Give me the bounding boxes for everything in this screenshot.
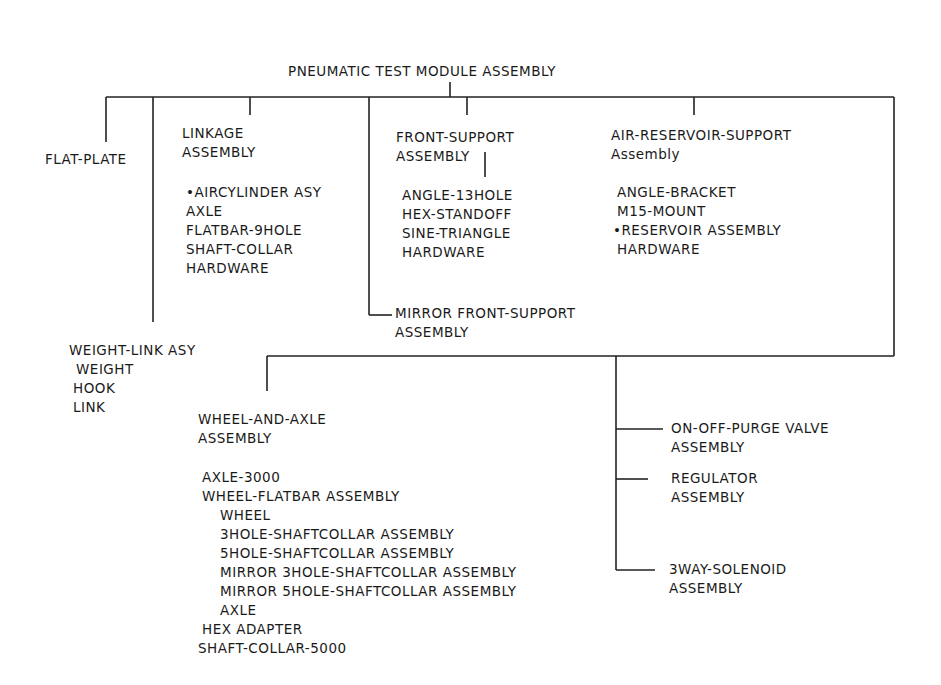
node-air-reservoir-support-assembly: AIR-RESERVOIR-SUPPORT Assembly	[611, 126, 791, 164]
node-weight-link-assembly: WEIGHT-LINK ASY WEIGHT HOOK LINK	[69, 341, 196, 417]
part-item: HEX ADAPTER	[198, 620, 517, 639]
node-title: ASSEMBLY	[671, 438, 829, 457]
node-regulator-assembly: REGULATOR ASSEMBLY	[671, 469, 758, 507]
node-wheel-and-axle-assembly: WHEEL-AND-AXLE ASSEMBLY	[198, 410, 326, 448]
part-item: WHEEL-FLATBAR ASSEMBLY	[198, 487, 517, 506]
node-title: 3WAY-SOLENOID	[669, 560, 787, 579]
part-item: MIRROR 3HOLE-SHAFTCOLLAR ASSEMBLY	[198, 563, 517, 582]
part-item: ANGLE-BRACKET	[613, 183, 781, 202]
part-item: 5HOLE-SHAFTCOLLAR ASSEMBLY	[198, 544, 517, 563]
node-on-off-purge-valve-assembly: ON-OFF-PURGE VALVE ASSEMBLY	[671, 419, 829, 457]
wheel-and-axle-parts-list: AXLE-3000 WHEEL-FLATBAR ASSEMBLY WHEEL 3…	[198, 468, 517, 658]
node-title: MIRROR FRONT-SUPPORT	[395, 304, 575, 323]
part-item: HARDWARE	[186, 259, 322, 278]
assembly-tree-diagram: PNEUMATIC TEST MODULE ASSEMBLY FLAT-PLAT…	[0, 0, 941, 685]
root-title: PNEUMATIC TEST MODULE ASSEMBLY	[288, 62, 556, 81]
part-item: HEX-STANDOFF	[402, 205, 513, 224]
node-linkage-assembly: LINKAGE ASSEMBLY	[182, 124, 256, 162]
node-title: ASSEMBLY	[396, 147, 514, 166]
part-item: MIRROR 5HOLE-SHAFTCOLLAR ASSEMBLY	[198, 582, 517, 601]
part-item: FLATBAR-9HOLE	[186, 221, 322, 240]
part-item: M15-MOUNT	[613, 202, 781, 221]
node-title: ON-OFF-PURGE VALVE	[671, 419, 829, 438]
part-item: 3HOLE-SHAFTCOLLAR ASSEMBLY	[198, 525, 517, 544]
linkage-parts-list: •AIRCYLINDER ASY AXLE FLATBAR-9HOLE SHAF…	[186, 183, 322, 278]
node-title: LINKAGE	[182, 124, 256, 143]
front-support-parts-list: ANGLE-13HOLE HEX-STANDOFF SINE-TRIANGLE …	[402, 186, 513, 262]
part-item: HOOK	[69, 379, 196, 398]
part-item: WHEEL	[198, 506, 517, 525]
part-item: AXLE	[186, 202, 322, 221]
part-item: AXLE-3000	[198, 468, 517, 487]
node-front-support-assembly: FRONT-SUPPORT ASSEMBLY	[396, 128, 514, 166]
part-item: HARDWARE	[402, 243, 513, 262]
part-item: SHAFT-COLLAR-5000	[198, 639, 517, 658]
part-item: LINK	[69, 398, 196, 417]
part-item: SHAFT-COLLAR	[186, 240, 322, 259]
node-flat-plate: FLAT-PLATE	[45, 150, 127, 169]
node-3way-solenoid-assembly: 3WAY-SOLENOID ASSEMBLY	[669, 560, 787, 598]
node-title: ASSEMBLY	[671, 488, 758, 507]
part-item: SINE-TRIANGLE	[402, 224, 513, 243]
air-reservoir-parts-list: ANGLE-BRACKET M15-MOUNT •RESERVOIR ASSEM…	[613, 183, 781, 259]
part-item: •AIRCYLINDER ASY	[186, 183, 322, 202]
node-title: ASSEMBLY	[182, 143, 256, 162]
node-mirror-front-support-assembly: MIRROR FRONT-SUPPORT ASSEMBLY	[395, 304, 575, 342]
part-item: •RESERVOIR ASSEMBLY	[613, 221, 781, 240]
node-title: WHEEL-AND-AXLE	[198, 410, 326, 429]
part-item: ANGLE-13HOLE	[402, 186, 513, 205]
node-title: ASSEMBLY	[395, 323, 575, 342]
node-title: FRONT-SUPPORT	[396, 128, 514, 147]
part-item: AXLE	[198, 601, 517, 620]
node-title: REGULATOR	[671, 469, 758, 488]
node-title: ASSEMBLY	[669, 579, 787, 598]
node-title: Assembly	[611, 145, 791, 164]
node-title: WEIGHT-LINK ASY	[69, 341, 196, 360]
node-title: ASSEMBLY	[198, 429, 326, 448]
node-title: AIR-RESERVOIR-SUPPORT	[611, 126, 791, 145]
part-item: WEIGHT	[69, 360, 196, 379]
part-item: HARDWARE	[613, 240, 781, 259]
